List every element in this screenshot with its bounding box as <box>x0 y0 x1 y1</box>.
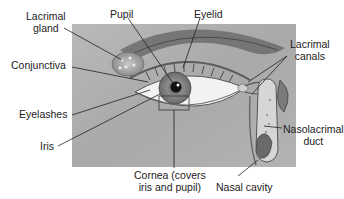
label-eyelashes: Eyelashes <box>19 109 67 121</box>
label-cornea-line2: iris and pupil) <box>134 182 206 194</box>
pupil <box>171 82 182 93</box>
label-lacrimal-gland: Lacrimal gland <box>26 11 66 34</box>
label-lacrimal-canals: Lacrimal canals <box>290 39 330 62</box>
label-nasal-cavity: Nasal cavity <box>216 182 273 194</box>
lacrimal-gland <box>112 52 144 76</box>
label-iris: Iris <box>40 141 54 153</box>
label-pupil: Pupil <box>110 9 133 21</box>
label-conjunctiva: Conjunctiva <box>11 60 66 72</box>
label-nasolacrimal-duct-line2: duct <box>283 136 344 148</box>
label-lacrimal-canals-line2: canals <box>290 51 330 63</box>
label-lacrimal-gland-line1: Lacrimal <box>26 11 66 23</box>
label-eyelid: Eyelid <box>194 9 223 21</box>
label-lacrimal-gland-line2: gland <box>26 23 66 35</box>
label-cornea: Cornea (covers iris and pupil) <box>134 170 206 193</box>
label-lacrimal-canals-line1: Lacrimal <box>290 39 330 51</box>
label-cornea-line1: Cornea (covers <box>134 170 206 182</box>
label-nasolacrimal-duct-line1: Nasolacrimal <box>283 124 344 136</box>
label-nasolacrimal-duct: Nasolacrimal duct <box>283 124 344 147</box>
